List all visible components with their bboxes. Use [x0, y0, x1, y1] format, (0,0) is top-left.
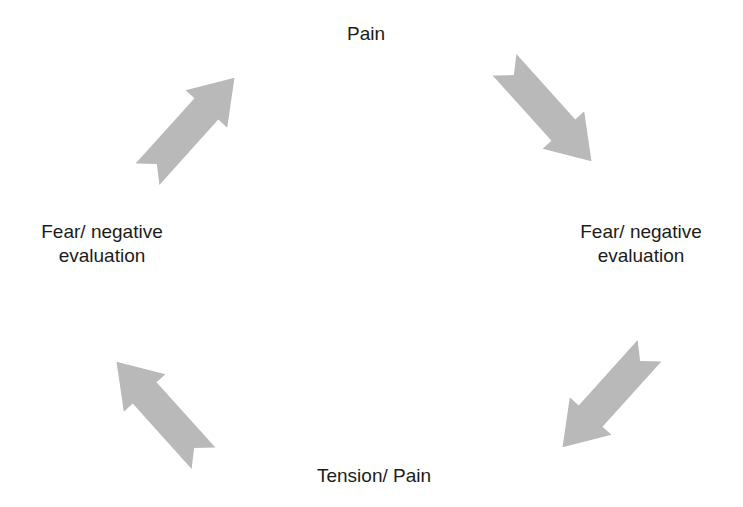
node-label-tension-pain: Tension/ Pain: [317, 464, 431, 488]
node-label-pain: Pain: [347, 22, 385, 46]
arrow-up-right-shape: [127, 59, 256, 193]
arrow-up-left-shape: [96, 343, 225, 477]
node-label-fear-right: Fear/ negative evaluation: [580, 220, 701, 268]
node-label-fear-right-line2: evaluation: [580, 244, 701, 268]
arrow-up-right-icon: [127, 59, 256, 193]
arrow-down-left-icon: [542, 332, 671, 466]
arrow-up-left-icon: [96, 343, 225, 477]
node-label-fear-left: Fear/ negative evaluation: [41, 220, 162, 268]
node-label-fear-left-line1: Fear/ negative: [41, 220, 162, 244]
arrow-down-left-shape: [542, 332, 671, 466]
arrow-down-right-icon: [484, 46, 613, 180]
cycle-diagram: Pain Fear/ negative evaluation Fear/ neg…: [0, 0, 743, 507]
arrow-down-right-shape: [484, 46, 613, 180]
node-label-fear-right-line1: Fear/ negative: [580, 220, 701, 244]
node-label-fear-left-line2: evaluation: [41, 244, 162, 268]
